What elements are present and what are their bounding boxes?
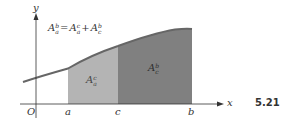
formula-term1: Aca [69,22,80,35]
tick-label-a: a [65,107,71,117]
tick-label-c: c [115,107,121,117]
formula-lhs-sub: a [55,29,59,35]
region-label-a-to-c-sub: a [93,81,97,87]
region-label-c-to-b: Abc [148,62,159,75]
x-axis-arrow-icon [217,102,224,107]
origin-label: O [27,107,35,117]
region-label-a-to-c-base: A [86,74,93,85]
figure-diagram [0,0,290,127]
formula-term2-sub: c [98,29,102,35]
region-label-a-to-c: Aca [86,74,97,87]
formula-term1-base: A [69,22,76,33]
figure-number: 5.21 [255,97,280,108]
x-axis-label: x [227,98,233,108]
formula-term2-base: A [91,22,98,33]
formula-term1-sub: a [77,29,81,35]
tick-label-b: b [188,107,194,117]
y-axis-label: y [33,3,39,13]
formula-plus: + [81,22,89,33]
formula-lhs-base: A [48,22,55,33]
area-additivity-formula: Aba=Aca+Abc [48,22,102,35]
region-label-c-to-b-sub: c [155,69,159,75]
y-axis-arrow-icon [34,13,39,20]
formula-term2: Abc [91,22,102,35]
formula-equals: = [60,22,68,33]
formula-lhs: Aba [48,22,59,35]
region-label-c-to-b-base: A [148,62,155,73]
